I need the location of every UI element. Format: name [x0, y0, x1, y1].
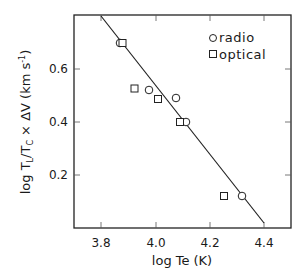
radio-point	[145, 86, 153, 94]
x-axis-label: log Te(K)	[152, 253, 212, 268]
legend-label-optical: optical	[219, 47, 266, 62]
x-tick-label: 4.0	[146, 236, 165, 250]
y-tick-label: 0.6	[49, 62, 68, 76]
optical-point	[155, 96, 162, 103]
chart-canvas: 3.8 4.0 4.2 4.4 0.6 0.4 0.2 log Te(K) lo…	[0, 0, 307, 278]
legend-circle-icon	[210, 35, 217, 42]
y-tick-label: 0.4	[49, 115, 68, 129]
series-optical	[119, 40, 228, 200]
y-tick-label: 0.2	[49, 168, 68, 182]
legend-label-radio: radio	[219, 30, 255, 45]
legend: radio optical	[210, 30, 267, 62]
optical-point	[221, 193, 228, 200]
x-tick-label: 3.8	[91, 236, 110, 250]
x-tick-label: 4.4	[254, 236, 273, 250]
legend-square-icon	[210, 51, 217, 58]
optical-point	[177, 119, 184, 126]
radio-point	[172, 94, 180, 102]
optical-point	[119, 40, 126, 47]
x-tick-label: 4.2	[200, 236, 219, 250]
optical-point	[131, 85, 138, 92]
radio-point	[238, 192, 246, 200]
y-axis-label: log TL/TC × ΔV (km s-1)	[18, 50, 35, 195]
